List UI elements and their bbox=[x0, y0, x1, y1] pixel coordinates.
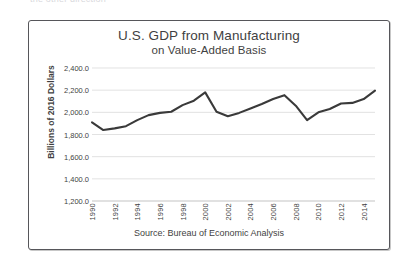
x-tick-label: 2002 bbox=[224, 203, 233, 221]
chart-title-main: U.S. GDP from Manufacturing bbox=[29, 28, 389, 43]
x-tick-label: 2008 bbox=[292, 203, 301, 221]
x-tick-label: 2014 bbox=[360, 203, 369, 221]
y-tick-label: 1,600.0 bbox=[64, 152, 89, 161]
x-tick-label: 1998 bbox=[179, 203, 188, 221]
x-tick-label: 2010 bbox=[314, 203, 323, 221]
x-tick-label: 2000 bbox=[201, 203, 210, 221]
y-tick-label: 2,400.0 bbox=[64, 64, 89, 73]
x-tick-label: 1996 bbox=[156, 203, 165, 221]
y-axis-tick-labels: 2,400.02,200.02,000.01,800.01,600.01,400… bbox=[51, 68, 89, 201]
plot-area: 2,400.02,200.02,000.01,800.01,600.01,400… bbox=[92, 68, 375, 201]
chart-title: U.S. GDP from Manufacturing on Value-Add… bbox=[29, 28, 389, 57]
x-tick-label: 2012 bbox=[337, 203, 346, 221]
x-tick-label: 2006 bbox=[269, 203, 278, 221]
chart-title-subtitle: on Value-Added Basis bbox=[29, 43, 389, 57]
x-tick-label: 1994 bbox=[133, 203, 142, 221]
line-chart-svg bbox=[92, 68, 375, 201]
y-tick-label: 1,200.0 bbox=[64, 197, 89, 206]
clipped-top-text: the other direction bbox=[30, 0, 350, 7]
x-tick-label: 1990 bbox=[88, 203, 97, 221]
x-tick-label: 2004 bbox=[246, 203, 255, 221]
gridlines bbox=[92, 68, 375, 201]
y-tick-label: 2,000.0 bbox=[64, 108, 89, 117]
x-axis-tick-labels: 1990199219941996199820002002200420062008… bbox=[92, 203, 375, 245]
y-tick-label: 2,200.0 bbox=[64, 86, 89, 95]
chart-frame: U.S. GDP from Manufacturing on Value-Add… bbox=[28, 20, 390, 250]
x-tick-label: 1992 bbox=[111, 203, 120, 221]
y-tick-label: 1,400.0 bbox=[64, 174, 89, 183]
gdp-manufacturing-line bbox=[92, 91, 375, 130]
source-note: Source: Bureau of Economic Analysis bbox=[29, 228, 389, 238]
y-tick-label: 1,800.0 bbox=[64, 130, 89, 139]
